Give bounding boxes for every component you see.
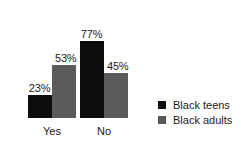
- plot-area: 23% 53% Yes 77% 45% No: [0, 0, 150, 152]
- bar-value-label-no-black-adults: 45%: [107, 60, 128, 72]
- legend-label-black-adults: Black adults: [173, 114, 232, 126]
- bar-value-label-yes-black-teens: 23%: [29, 82, 50, 94]
- bar-value-label-no-black-teens: 77%: [81, 28, 102, 40]
- legend-label-black-teens: Black teens: [173, 99, 230, 111]
- bar-no-black-teens: 77%: [80, 41, 104, 118]
- bar-yes-black-teens: 23%: [28, 95, 52, 118]
- category-label-yes: Yes: [28, 125, 76, 138]
- legend-swatch-icon-black-teens: [158, 101, 166, 109]
- legend-swatch-icon-black-adults: [158, 116, 166, 124]
- bar-group-yes-bars: 23% 53%: [28, 18, 76, 118]
- category-label-no: No: [80, 125, 128, 138]
- bar-yes-black-adults: 53%: [52, 65, 76, 118]
- legend-item-black-adults: Black adults: [158, 112, 232, 127]
- bar-value-label-yes-black-adults: 53%: [55, 52, 76, 64]
- legend-item-black-teens: Black teens: [158, 97, 232, 112]
- bar-no-black-adults: 45%: [104, 73, 128, 118]
- bar-chart-figure: 23% 53% Yes 77% 45% No: [0, 0, 247, 152]
- bar-group-no-bars: 77% 45%: [80, 18, 128, 118]
- chart-legend: Black teens Black adults: [158, 97, 232, 127]
